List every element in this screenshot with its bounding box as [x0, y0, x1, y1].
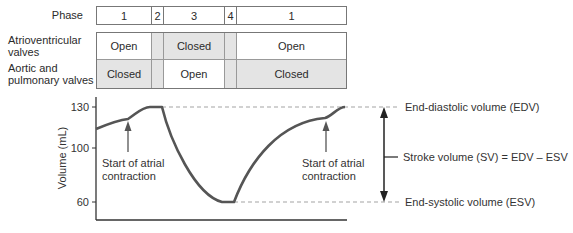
- edv-label: End-diastolic volume (EDV): [405, 101, 540, 113]
- ytick-label-60: 60: [77, 196, 89, 208]
- atrial-annotation-right-line2: contraction: [302, 170, 356, 182]
- volume-curve: [96, 107, 345, 202]
- volume-chart: 130 100 60 Volume (mL) Start of atrial c…: [0, 0, 573, 233]
- atrial-annotation-left-line1: Start of atrial: [102, 157, 164, 169]
- atrial-arrow-left-head: [125, 121, 132, 131]
- stroke-volume-arrow-down-head: [380, 191, 388, 202]
- esv-label: End-systolic volume (ESV): [405, 196, 535, 208]
- stroke-volume-arrow-up-head: [380, 107, 388, 118]
- atrial-arrow-right-head: [323, 121, 330, 131]
- sv-label: Stroke volume (SV) = EDV – ESV: [403, 151, 568, 163]
- ytick-label-130: 130: [71, 101, 89, 113]
- atrial-annotation-left-line2: contraction: [102, 170, 156, 182]
- y-axis-label: Volume (mL): [56, 127, 68, 189]
- atrial-annotation-right-line1: Start of atrial: [302, 157, 364, 169]
- ytick-label-100: 100: [71, 142, 89, 154]
